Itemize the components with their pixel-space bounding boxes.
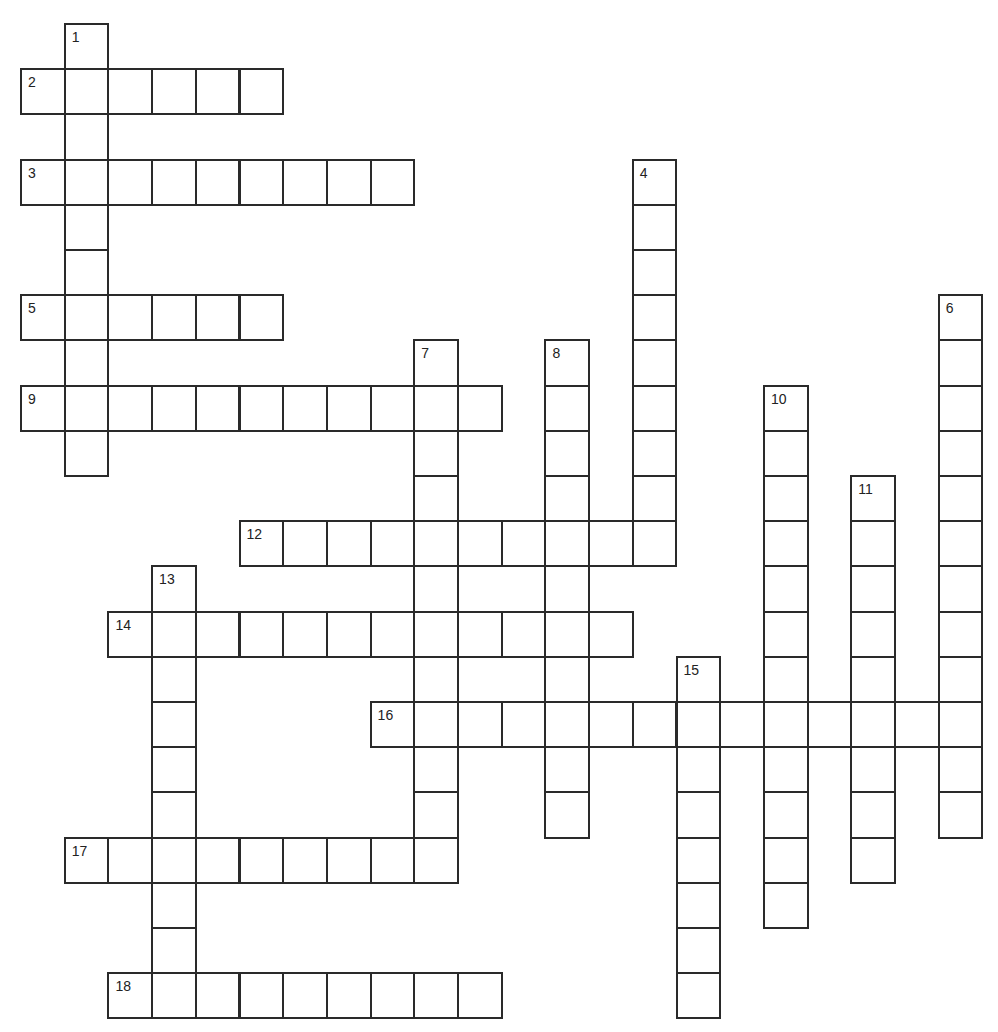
- crossword-cell[interactable]: [370, 837, 416, 884]
- crossword-cell[interactable]: [850, 837, 896, 884]
- crossword-cell[interactable]: [64, 68, 110, 115]
- crossword-cell[interactable]: [544, 475, 590, 522]
- crossword-cell[interactable]: [850, 611, 896, 658]
- crossword-cell[interactable]: [326, 972, 372, 1019]
- crossword-cell[interactable]: [64, 204, 110, 251]
- crossword-cell[interactable]: [64, 339, 110, 386]
- crossword-cell[interactable]: [64, 159, 110, 206]
- crossword-cell[interactable]: [107, 294, 153, 341]
- crossword-cell[interactable]: 15: [676, 656, 722, 703]
- crossword-cell[interactable]: [326, 611, 372, 658]
- crossword-cell[interactable]: [632, 204, 678, 251]
- crossword-cell[interactable]: [588, 611, 634, 658]
- crossword-cell[interactable]: [544, 520, 590, 567]
- crossword-cell[interactable]: [413, 475, 459, 522]
- crossword-cell[interactable]: [370, 611, 416, 658]
- crossword-cell[interactable]: [632, 701, 678, 748]
- crossword-cell[interactable]: [457, 520, 503, 567]
- crossword-cell[interactable]: [282, 385, 328, 432]
- crossword-cell[interactable]: [195, 294, 241, 341]
- crossword-cell[interactable]: [195, 611, 241, 658]
- crossword-cell[interactable]: [938, 565, 984, 612]
- crossword-cell[interactable]: [151, 882, 197, 929]
- crossword-cell[interactable]: [850, 520, 896, 567]
- crossword-cell[interactable]: [763, 837, 809, 884]
- crossword-cell[interactable]: [195, 159, 241, 206]
- crossword-cell[interactable]: [938, 520, 984, 567]
- crossword-cell[interactable]: [850, 746, 896, 793]
- crossword-cell[interactable]: [457, 972, 503, 1019]
- crossword-cell[interactable]: [544, 611, 590, 658]
- crossword-cell[interactable]: [64, 249, 110, 296]
- crossword-cell[interactable]: [632, 520, 678, 567]
- crossword-cell[interactable]: [457, 701, 503, 748]
- crossword-cell[interactable]: [676, 791, 722, 838]
- crossword-cell[interactable]: 8: [544, 339, 590, 386]
- crossword-cell[interactable]: [151, 611, 197, 658]
- crossword-cell[interactable]: 14: [107, 611, 153, 658]
- crossword-cell[interactable]: 2: [20, 68, 66, 115]
- crossword-cell[interactable]: [938, 475, 984, 522]
- crossword-cell[interactable]: [413, 972, 459, 1019]
- crossword-cell[interactable]: [413, 611, 459, 658]
- crossword-cell[interactable]: [151, 746, 197, 793]
- crossword-cell[interactable]: 9: [20, 385, 66, 432]
- crossword-cell[interactable]: [151, 972, 197, 1019]
- crossword-cell[interactable]: [632, 430, 678, 477]
- crossword-cell[interactable]: [676, 882, 722, 929]
- crossword-cell[interactable]: [676, 837, 722, 884]
- crossword-cell[interactable]: [544, 656, 590, 703]
- crossword-cell[interactable]: [326, 159, 372, 206]
- crossword-cell[interactable]: [195, 972, 241, 1019]
- crossword-cell[interactable]: [676, 972, 722, 1019]
- crossword-cell[interactable]: [763, 791, 809, 838]
- crossword-cell[interactable]: [763, 611, 809, 658]
- crossword-cell[interactable]: [632, 249, 678, 296]
- crossword-cell[interactable]: [282, 159, 328, 206]
- crossword-cell[interactable]: [588, 701, 634, 748]
- crossword-cell[interactable]: [850, 701, 896, 748]
- crossword-cell[interactable]: [894, 701, 940, 748]
- crossword-cell[interactable]: 4: [632, 159, 678, 206]
- crossword-cell[interactable]: [195, 68, 241, 115]
- crossword-cell[interactable]: [938, 791, 984, 838]
- crossword-cell[interactable]: [107, 385, 153, 432]
- crossword-cell[interactable]: [763, 520, 809, 567]
- crossword-cell[interactable]: [501, 520, 547, 567]
- crossword-cell[interactable]: 3: [20, 159, 66, 206]
- crossword-cell[interactable]: [544, 701, 590, 748]
- crossword-cell[interactable]: [239, 972, 285, 1019]
- crossword-cell[interactable]: [282, 520, 328, 567]
- crossword-cell[interactable]: [544, 385, 590, 432]
- crossword-cell[interactable]: [544, 791, 590, 838]
- crossword-cell[interactable]: [807, 701, 853, 748]
- crossword-cell[interactable]: [763, 746, 809, 793]
- crossword-cell[interactable]: [413, 837, 459, 884]
- crossword-cell[interactable]: [938, 701, 984, 748]
- crossword-cell[interactable]: [151, 791, 197, 838]
- crossword-cell[interactable]: [151, 837, 197, 884]
- crossword-cell[interactable]: [151, 68, 197, 115]
- crossword-cell[interactable]: [151, 701, 197, 748]
- crossword-cell[interactable]: [763, 430, 809, 477]
- crossword-cell[interactable]: [326, 385, 372, 432]
- crossword-cell[interactable]: [151, 294, 197, 341]
- crossword-cell[interactable]: 7: [413, 339, 459, 386]
- crossword-cell[interactable]: 17: [64, 837, 110, 884]
- crossword-cell[interactable]: [413, 791, 459, 838]
- crossword-cell[interactable]: [938, 746, 984, 793]
- crossword-cell[interactable]: [544, 746, 590, 793]
- crossword-cell[interactable]: [239, 294, 285, 341]
- crossword-cell[interactable]: [457, 611, 503, 658]
- crossword-cell[interactable]: [763, 701, 809, 748]
- crossword-cell[interactable]: 5: [20, 294, 66, 341]
- crossword-cell[interactable]: [676, 746, 722, 793]
- crossword-cell[interactable]: [413, 385, 459, 432]
- crossword-cell[interactable]: [239, 385, 285, 432]
- crossword-cell[interactable]: [763, 565, 809, 612]
- crossword-cell[interactable]: [151, 385, 197, 432]
- crossword-cell[interactable]: [413, 520, 459, 567]
- crossword-cell[interactable]: [282, 837, 328, 884]
- crossword-cell[interactable]: [544, 565, 590, 612]
- crossword-cell[interactable]: [938, 611, 984, 658]
